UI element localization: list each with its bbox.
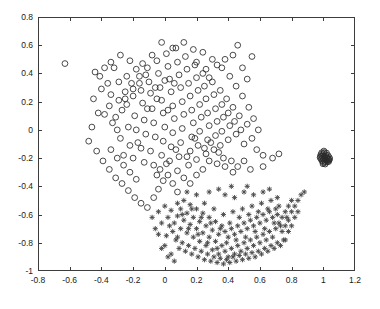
data-point-plus [229, 184, 234, 189]
data-point-plus [195, 254, 200, 259]
data-point-plus [189, 206, 194, 211]
data-point-plus [295, 209, 300, 214]
data-point-plus [194, 206, 199, 211]
data-point-plus [262, 226, 267, 231]
x-tick-label: 0.8 [286, 275, 298, 285]
data-point-plus [211, 254, 216, 259]
data-point-plus [221, 261, 226, 266]
data-point-plus [302, 189, 307, 194]
data-point-plus [167, 223, 172, 228]
data-point-plus [162, 203, 167, 208]
data-point-plus [237, 253, 242, 258]
data-point-plus [178, 226, 183, 231]
data-point-plus [165, 254, 170, 259]
data-point-plus [253, 254, 258, 259]
data-point-plus [286, 229, 291, 234]
x-tick-label: 0.4 [222, 275, 234, 285]
data-point-plus [183, 249, 188, 254]
data-point-plus [289, 209, 294, 214]
scatter-plot-canvas: -0.8-0.6-0.4-0.200.20.40.60.811.2-1-0.8-… [0, 0, 380, 309]
data-point-plus [265, 249, 270, 254]
y-tick-label: -0.8 [18, 238, 33, 248]
data-point-plus [175, 235, 180, 240]
data-point-plus [246, 256, 251, 261]
data-point-plus [283, 223, 288, 228]
data-point-plus [195, 232, 200, 237]
data-point-plus [200, 230, 205, 235]
data-point-plus [218, 256, 223, 261]
data-point-plus [202, 201, 207, 206]
data-point-plus [159, 246, 164, 251]
data-point-plus [232, 232, 237, 237]
data-point-plus [248, 237, 253, 242]
data-point-plus [264, 237, 269, 242]
data-point-plus [181, 218, 186, 223]
data-point-plus [230, 254, 235, 259]
data-point-plus [175, 213, 180, 218]
data-point-plus [208, 220, 213, 225]
data-point-plus [268, 198, 273, 203]
data-point-plus [194, 192, 199, 197]
data-point-plus [192, 246, 197, 251]
data-point-plus [260, 189, 265, 194]
data-point-plus [169, 208, 174, 213]
data-point-plus [234, 237, 239, 242]
data-point-plus [289, 223, 294, 228]
data-point-plus [284, 215, 289, 220]
x-tick-label: 0.2 [191, 275, 203, 285]
x-tick-label: -0.8 [31, 275, 46, 285]
data-point-plus [180, 240, 185, 245]
data-point-plus [175, 201, 180, 206]
data-point-plus [286, 203, 291, 208]
data-point-plus [248, 218, 253, 223]
data-point-plus [276, 203, 281, 208]
y-tick-label: 0.2 [21, 97, 33, 107]
data-point-plus [232, 195, 237, 200]
data-point-plus [194, 226, 199, 231]
y-tick-label: -0.4 [18, 181, 33, 191]
y-tick-label: -0.6 [18, 210, 33, 220]
data-point-plus [211, 206, 216, 211]
data-point-plus [272, 246, 277, 251]
x-tick-label: -0.4 [94, 275, 109, 285]
data-point-plus [181, 198, 186, 203]
data-point-plus [292, 203, 297, 208]
data-point-plus [240, 257, 245, 262]
data-point-plus [229, 226, 234, 231]
data-point-plus [172, 220, 177, 225]
data-point-plus [251, 243, 256, 248]
data-point-plus [222, 192, 227, 197]
data-point-plus [164, 233, 169, 238]
data-point-plus [278, 223, 283, 228]
data-point-plus [279, 215, 284, 220]
x-tick-label: -0.2 [126, 275, 141, 285]
data-point-plus [229, 246, 234, 251]
data-point-plus [156, 209, 161, 214]
data-point-plus [254, 235, 259, 240]
y-tick-label: -0.2 [18, 153, 33, 163]
data-point-plus [272, 220, 277, 225]
data-point-plus [210, 227, 215, 232]
data-point-plus [283, 209, 288, 214]
data-point-plus [256, 209, 261, 214]
data-point-plus [275, 195, 280, 200]
data-point-plus [218, 226, 223, 231]
data-point-plus [249, 250, 254, 255]
data-point-plus [215, 260, 220, 265]
data-point-plus [235, 223, 240, 228]
data-point-plus [216, 232, 221, 237]
data-point-plus [205, 251, 210, 256]
data-point-plus [253, 229, 258, 234]
x-tick-label: 1.2 [349, 275, 361, 285]
data-point-plus [257, 220, 262, 225]
data-point-plus [224, 240, 229, 245]
data-point-plus [186, 243, 191, 248]
data-point-plus [251, 223, 256, 228]
data-point-plus [270, 235, 275, 240]
data-point-plus [216, 187, 221, 192]
data-point-plus [241, 240, 246, 245]
data-point-plus [260, 232, 265, 237]
y-tick-label: 0.4 [21, 68, 33, 78]
data-point-plus [259, 251, 264, 256]
data-point-plus [275, 212, 280, 217]
